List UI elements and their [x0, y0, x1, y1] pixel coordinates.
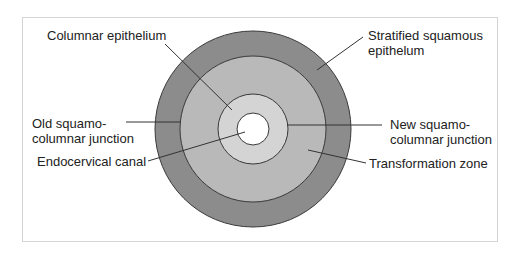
endocervical-canal-circle: [237, 113, 269, 145]
label-new-squamocolumnar-junction: New squamo- columnar junction: [390, 117, 492, 147]
label-stratified-squamous-epithelium: Stratified squamous epithelum: [368, 28, 483, 58]
leader-stratified-squamous: [317, 37, 363, 70]
label-columnar-epithelium: Columnar epithelium: [47, 28, 166, 43]
label-endocervical-canal: Endocervical canal: [37, 154, 146, 169]
label-transformation-zone: Transformation zone: [369, 156, 488, 171]
label-old-squamocolumnar-junction: Old squamo- columnar junction: [32, 116, 134, 146]
diagram-canvas: Columnar epithelium Stratified squamous …: [0, 0, 521, 253]
